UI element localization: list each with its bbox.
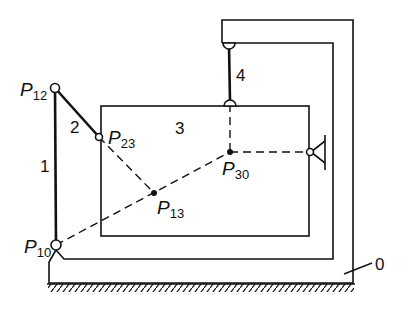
link-1-bar (55, 88, 56, 245)
body-link-3 (101, 106, 309, 236)
label-p13: P13 (157, 197, 184, 221)
joint-top-icon (223, 43, 235, 49)
ground-hatching (48, 284, 354, 292)
leader-line-0 (344, 263, 372, 274)
mechanism-diagram: 1 2 3 4 0 P12 P23 P13 P30 P10 (0, 0, 409, 317)
label-link-2: 2 (70, 118, 79, 137)
label-p10: P10 (24, 236, 51, 260)
label-link-3: 3 (175, 119, 184, 138)
link-4-bar (229, 46, 230, 101)
label-link-1: 1 (40, 157, 49, 176)
pole-p23-icon (96, 134, 103, 141)
pole-p30-icon (227, 149, 233, 155)
pole-p12-icon (51, 84, 60, 93)
label-link-0: 0 (375, 255, 384, 274)
pole-p10-icon (51, 240, 61, 250)
label-link-4: 4 (236, 66, 245, 85)
joint-body3-icon (224, 100, 236, 106)
label-p23: P23 (108, 127, 135, 151)
label-p12: P12 (20, 79, 47, 103)
label-p30: P30 (222, 158, 249, 182)
pole-p13-icon (151, 190, 157, 196)
